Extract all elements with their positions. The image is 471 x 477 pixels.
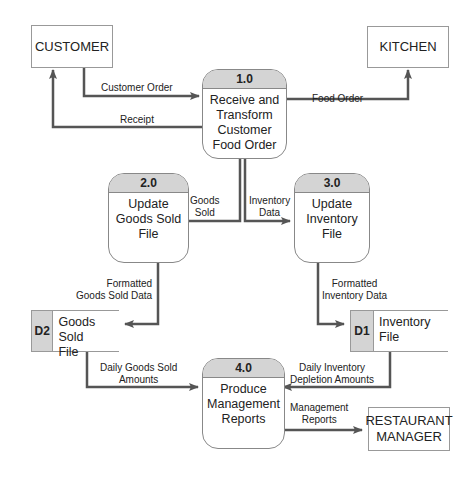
- datastore-d2[interactable]: D2 Goods Sold File: [31, 310, 119, 352]
- entity-customer[interactable]: CUSTOMER: [31, 25, 113, 68]
- process-1[interactable]: 1.0 Receive and Transform Customer Food …: [202, 69, 287, 159]
- flow-label-daily-inventory: Daily InventoryDepletion Amounts: [290, 362, 374, 386]
- process-2[interactable]: 2.0 Update Goods Sold File: [108, 173, 189, 263]
- process-label: Customer: [203, 123, 286, 138]
- flow-label-receipt: Receipt: [120, 114, 154, 126]
- process-label: Reports: [203, 412, 284, 427]
- process-label: Management: [203, 397, 284, 412]
- process-label: File: [109, 227, 188, 242]
- process-label: Goods Sold: [109, 212, 188, 227]
- store-label: File: [379, 330, 430, 345]
- entity-label: CUSTOMER: [35, 39, 109, 55]
- flow-label-goods-sold: GoodsSold: [190, 195, 219, 219]
- store-id: D2: [31, 311, 53, 351]
- flow-label-food-order: Food Order: [312, 93, 363, 105]
- flow-label-daily-goods: Daily Goods SoldAmounts: [100, 362, 177, 386]
- entity-label: MANAGER: [376, 429, 442, 445]
- store-label: Inventory: [379, 315, 430, 330]
- flow-label-management-reports: ManagementReports: [290, 402, 348, 426]
- entity-label: KITCHEN: [379, 39, 436, 55]
- flow-label-customer-order: Customer Order: [101, 82, 173, 94]
- store-label: Goods Sold: [58, 315, 119, 345]
- flow-label-inventory-data: InventoryData: [249, 195, 290, 219]
- process-3[interactable]: 3.0 Update Inventory File: [294, 173, 370, 263]
- flow-label-formatted-goods: FormattedGoods Sold Data: [76, 278, 152, 302]
- process-label: Produce: [203, 382, 284, 397]
- store-id: D1: [350, 311, 374, 351]
- process-label: Food Order: [203, 138, 286, 153]
- datastore-d1[interactable]: D1 Inventory File: [350, 310, 448, 352]
- process-id: 3.0: [295, 174, 369, 193]
- process-label: Update: [109, 197, 188, 212]
- process-label: File: [295, 227, 369, 242]
- entity-kitchen[interactable]: KITCHEN: [367, 26, 449, 68]
- process-id: 2.0: [109, 174, 188, 193]
- process-label: Receive and: [203, 93, 286, 108]
- process-4[interactable]: 4.0 Produce Management Reports: [202, 358, 285, 449]
- store-label: File: [58, 345, 119, 360]
- process-label: Transform: [203, 108, 286, 123]
- entity-restaurant-manager[interactable]: RESTAURANT MANAGER: [368, 407, 450, 451]
- flow-label-formatted-inventory: FormattedInventory Data: [322, 278, 387, 302]
- entity-label: RESTAURANT: [365, 413, 452, 429]
- process-label: Update: [295, 197, 369, 212]
- process-id: 4.0: [203, 359, 284, 378]
- process-label: Inventory: [295, 212, 369, 227]
- process-id: 1.0: [203, 70, 286, 89]
